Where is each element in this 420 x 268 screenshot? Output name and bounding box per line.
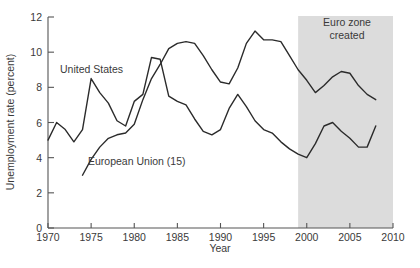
series-label-european-union: European Union (15): [88, 155, 185, 167]
y-tick-label: 2: [36, 187, 42, 199]
y-axis-tick-labels: 024681012: [30, 11, 42, 234]
y-tick-label: 12: [30, 11, 42, 23]
y-axis-title: Unemployment rate (percent): [4, 54, 16, 191]
x-tick-label: 1985: [166, 231, 190, 243]
x-tick-label: 2010: [381, 231, 405, 243]
y-tick-label: 10: [30, 46, 42, 58]
euro-zone-shaded-region: [298, 16, 393, 228]
x-tick-label: 1975: [79, 231, 103, 243]
y-axis-ticks: [48, 17, 54, 228]
y-tick-label: 0: [36, 222, 42, 234]
annotation-euro-zone-line2: created: [329, 29, 364, 41]
x-tick-label: 2005: [338, 231, 362, 243]
y-tick-label: 8: [36, 81, 42, 93]
series-label-united-states: United States: [60, 63, 123, 75]
y-tick-label: 4: [36, 152, 42, 164]
x-tick-label: 2000: [295, 231, 319, 243]
x-axis-title: Year: [209, 242, 231, 254]
x-tick-label: 1995: [252, 231, 276, 243]
unemployment-rate-chart: 197019751980198519901995200020052010 024…: [0, 0, 420, 268]
x-tick-label: 1980: [123, 231, 147, 243]
chart-svg: 197019751980198519901995200020052010 024…: [0, 0, 420, 268]
y-tick-label: 6: [36, 117, 42, 129]
annotation-euro-zone-line1: Euro zone: [323, 16, 371, 28]
